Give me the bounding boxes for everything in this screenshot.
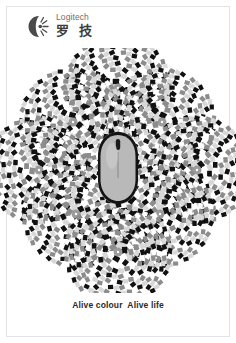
computer-mouse bbox=[98, 132, 138, 204]
mouse-highlight bbox=[106, 143, 118, 169]
brand-latin-name: Logitech bbox=[56, 13, 95, 22]
poster-page: Logitech 罗 技 Alive colour Alive life bbox=[0, 0, 236, 343]
logitech-c-sunburst-icon bbox=[27, 14, 52, 39]
illusion-flower-svg bbox=[0, 48, 236, 293]
logitech-logo: Logitech 罗 技 bbox=[27, 13, 95, 39]
logitech-wordmark: Logitech 罗 技 bbox=[56, 13, 95, 37]
tagline: Alive colour Alive life bbox=[0, 300, 236, 310]
optical-illusion-artwork bbox=[0, 48, 236, 293]
brand-cjk-name: 罗 技 bbox=[56, 24, 95, 37]
